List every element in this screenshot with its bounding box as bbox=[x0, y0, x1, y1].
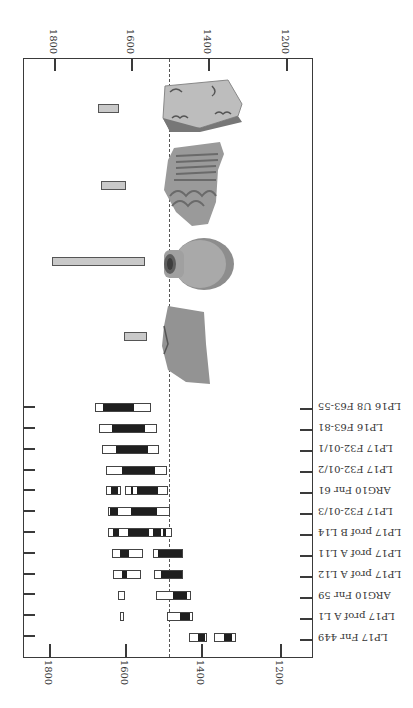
bottom-tick-1400 bbox=[201, 644, 203, 657]
right-row-tick bbox=[300, 450, 312, 452]
row-label: LP17 Fnr 449 bbox=[318, 632, 388, 643]
left-row-tick bbox=[23, 448, 35, 450]
left-row-tick bbox=[23, 593, 35, 595]
top-label-1600: 1600 bbox=[125, 29, 136, 54]
range-box bbox=[106, 466, 167, 475]
bottom-tick-1600 bbox=[125, 644, 127, 657]
right-row-tick bbox=[300, 576, 312, 578]
right-row-tick bbox=[300, 429, 312, 431]
jar-image bbox=[160, 234, 236, 294]
bottom-label-1200: 1200 bbox=[274, 660, 285, 685]
top-label-1200: 1200 bbox=[280, 29, 291, 54]
left-row-tick bbox=[23, 531, 35, 533]
range-box bbox=[108, 528, 172, 537]
bottom-label-1400: 1400 bbox=[195, 660, 206, 685]
top-label-1400: 1400 bbox=[202, 29, 213, 54]
striped-sherd-image bbox=[162, 140, 232, 228]
bottom-label-1600: 1600 bbox=[119, 660, 130, 685]
right-row-tick bbox=[300, 513, 312, 515]
top-label-1800: 1800 bbox=[48, 29, 59, 54]
range-dark bbox=[103, 404, 134, 411]
range-dark bbox=[128, 529, 149, 536]
range-box bbox=[99, 424, 157, 433]
left-row-tick bbox=[23, 635, 35, 637]
row-label: LP17 prof B L14 bbox=[318, 527, 401, 538]
row-label: LP17 F32-01/2 bbox=[318, 464, 393, 475]
range-box bbox=[95, 403, 151, 412]
row-label: LP16 F63-81 bbox=[318, 422, 383, 433]
right-row-tick bbox=[300, 492, 312, 494]
right-row-tick bbox=[300, 597, 312, 599]
range-box bbox=[189, 633, 207, 642]
range-dark bbox=[113, 529, 119, 536]
range-dark bbox=[110, 508, 118, 515]
range-box bbox=[120, 612, 124, 621]
range-dark bbox=[122, 571, 127, 578]
bottom-tick-1800 bbox=[49, 644, 51, 657]
range-dark bbox=[120, 550, 129, 557]
artifact-range-bar bbox=[124, 332, 147, 341]
bottom-label-1800: 1800 bbox=[43, 660, 54, 685]
plain-sherd-image bbox=[160, 304, 216, 388]
top-tick-1800 bbox=[54, 59, 56, 71]
right-row-tick bbox=[300, 471, 312, 473]
top-tick-1600 bbox=[131, 59, 133, 71]
dating-chart: 1800 1600 1400 1200 1800 1600 1400 1200 … bbox=[0, 0, 413, 708]
left-row-tick bbox=[23, 552, 35, 554]
left-row-tick bbox=[23, 406, 35, 408]
range-box bbox=[108, 507, 170, 516]
range-dark bbox=[131, 487, 133, 494]
top-tick-1400 bbox=[208, 59, 210, 71]
range-dark bbox=[122, 467, 155, 474]
left-row-tick bbox=[23, 510, 35, 512]
bottom-tick-1200 bbox=[280, 644, 282, 657]
left-row-tick bbox=[23, 489, 35, 491]
decorated-sherd-image bbox=[160, 78, 246, 132]
range-dark bbox=[112, 425, 145, 432]
row-label: LP17 F32-01/3 bbox=[318, 506, 393, 517]
row-label: LP17 prof A L1 bbox=[318, 611, 395, 622]
row-label: LP17 prof A L12 bbox=[318, 569, 401, 580]
range-box bbox=[153, 549, 183, 558]
range-dark bbox=[153, 529, 161, 536]
range-box bbox=[167, 612, 193, 621]
range-dark bbox=[131, 508, 157, 515]
range-dark bbox=[163, 529, 166, 536]
range-dark bbox=[111, 487, 118, 494]
range-dark bbox=[116, 446, 148, 453]
artifact-range-bar bbox=[52, 257, 145, 266]
row-label: LP16 U8 F63-55 bbox=[318, 401, 401, 412]
range-box bbox=[156, 591, 191, 600]
range-box bbox=[118, 591, 125, 600]
artifact-range-bar bbox=[101, 181, 126, 190]
range-box bbox=[154, 570, 183, 579]
row-label: ARG10 Fnr 61 bbox=[318, 485, 391, 496]
right-row-tick bbox=[300, 534, 312, 536]
range-dark bbox=[173, 592, 187, 599]
range-dark bbox=[180, 613, 190, 620]
row-label: ARG10 Fnr 59 bbox=[318, 590, 391, 601]
right-row-tick bbox=[300, 408, 312, 410]
right-row-tick bbox=[300, 555, 312, 557]
left-row-tick bbox=[23, 614, 35, 616]
left-row-tick bbox=[23, 573, 35, 575]
range-dark bbox=[161, 571, 182, 578]
right-row-tick bbox=[300, 618, 312, 620]
range-box bbox=[125, 486, 168, 495]
range-box bbox=[106, 486, 121, 495]
left-row-tick bbox=[23, 427, 35, 429]
range-dark bbox=[158, 550, 182, 557]
range-dark bbox=[137, 487, 158, 494]
range-box bbox=[214, 633, 236, 642]
range-box bbox=[112, 549, 143, 558]
top-tick-1200 bbox=[286, 59, 288, 71]
artifact-range-bar bbox=[98, 104, 119, 113]
range-dark bbox=[224, 634, 232, 641]
right-row-tick bbox=[300, 639, 312, 641]
range-dark bbox=[198, 634, 205, 641]
row-label: LP17 F32-01/1 bbox=[318, 443, 393, 454]
left-row-tick bbox=[23, 469, 35, 471]
range-box bbox=[102, 445, 159, 454]
row-label: LP17 prof A L11 bbox=[318, 548, 401, 559]
range-box bbox=[113, 570, 141, 579]
